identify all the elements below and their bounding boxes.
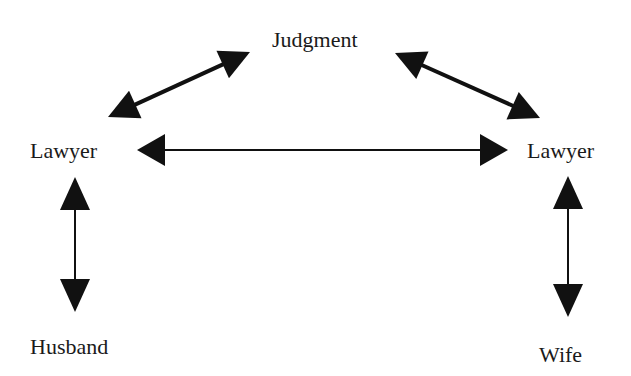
arrow-judgment-lawyer-right <box>395 52 540 120</box>
arrow-lawyer-left-husband <box>60 177 90 312</box>
arrowhead-start-icon <box>137 134 165 166</box>
node-lawyer-left: Lawyer <box>30 140 97 162</box>
node-lawyer-right: Lawyer <box>527 140 594 162</box>
node-wife: Wife <box>539 344 582 366</box>
edges-layer <box>0 0 631 376</box>
arrow-lawyer-left-lawyer-right <box>137 134 508 166</box>
arrow-shaft <box>133 64 224 106</box>
arrowhead-start-icon <box>553 176 583 209</box>
arrow-shaft <box>421 64 515 106</box>
arrowhead-end-icon <box>480 134 508 166</box>
arrowhead-start-icon <box>60 177 90 210</box>
relationship-diagram: Judgment Lawyer Lawyer Husband Wife <box>0 0 631 376</box>
node-husband: Husband <box>30 336 108 358</box>
arrow-lawyer-left-judgment <box>108 51 250 118</box>
arrow-lawyer-right-wife <box>553 176 583 317</box>
arrowhead-end-icon <box>553 284 583 317</box>
node-judgment: Judgment <box>272 29 358 51</box>
arrowhead-end-icon <box>60 279 90 312</box>
